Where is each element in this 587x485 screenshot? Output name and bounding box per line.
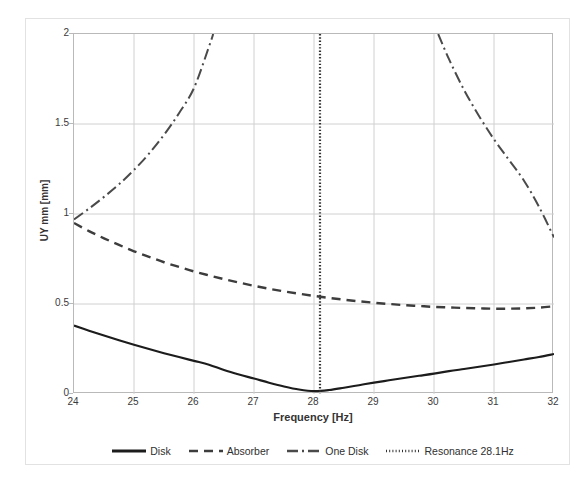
x-tick-label: 25 — [113, 396, 153, 407]
plot-canvas — [74, 34, 554, 394]
gridlines — [74, 34, 554, 394]
chart-figure: UY mm [mm] 00.511.52 242526272829303132 … — [0, 0, 587, 485]
y-tick-label: 1.5 — [29, 118, 69, 128]
legend-item-absorber[interactable]: Absorber — [189, 445, 270, 457]
legend-label: One Disk — [325, 445, 368, 457]
x-tick-label: 32 — [533, 396, 573, 407]
y-tick-mark — [69, 393, 73, 394]
plot-area — [73, 33, 553, 393]
x-tick-label: 24 — [53, 396, 93, 407]
legend-item-resonance-28-1hz[interactable]: Resonance 28.1Hz — [386, 445, 513, 457]
x-tick-label: 29 — [353, 396, 393, 407]
legend-item-one-disk[interactable]: One Disk — [287, 445, 368, 457]
legend-swatch-dotted — [386, 445, 420, 457]
legend-swatch-dashdot — [287, 445, 321, 457]
legend-label: Absorber — [227, 445, 270, 457]
y-tick-label: 1 — [29, 208, 69, 218]
x-tick-label: 28 — [293, 396, 333, 407]
x-tick-label: 31 — [473, 396, 513, 407]
x-axis-ticks: 242526272829303132 — [73, 396, 553, 412]
x-tick-label: 26 — [173, 396, 213, 407]
y-axis-ticks: 00.511.52 — [25, 33, 69, 393]
series-line-one-disk — [438, 34, 554, 237]
legend-item-disk[interactable]: Disk — [112, 445, 170, 457]
x-tick-label: 30 — [413, 396, 453, 407]
legend-swatch-solid — [112, 445, 146, 457]
chart-legend: DiskAbsorberOne DiskResonance 28.1Hz — [73, 441, 553, 461]
legend-label: Resonance 28.1Hz — [424, 445, 513, 457]
legend-label: Disk — [150, 445, 170, 457]
legend-swatch-dashed — [189, 445, 223, 457]
y-tick-label: 0.5 — [29, 298, 69, 308]
x-tick-label: 27 — [233, 396, 273, 407]
y-tick-label: 2 — [29, 28, 69, 38]
series-line-one-disk — [74, 34, 213, 219]
x-axis-title: Frequency [Hz] — [73, 411, 553, 423]
